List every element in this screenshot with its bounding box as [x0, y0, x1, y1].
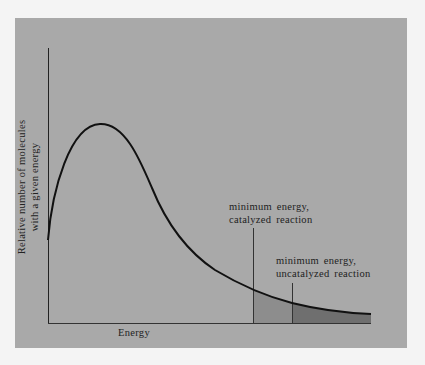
y-axis-label-line2: with a given energy [28, 120, 41, 255]
catalyzed-shaded-area [253, 290, 292, 323]
y-axis-label: Relative number of molecules with a give… [15, 120, 41, 255]
uncatalyzed-annotation-line2: uncatalyzed reaction [276, 267, 371, 280]
catalyzed-annotation: minimum energy, catalyzed reaction [229, 200, 312, 226]
uncatalyzed-annotation: minimum energy, uncatalyzed reaction [276, 254, 371, 280]
catalyzed-annotation-line2: catalyzed reaction [229, 213, 312, 226]
chart-plot [0, 0, 425, 365]
catalyzed-annotation-line1: minimum energy, [229, 200, 312, 213]
energy-distribution-curve [48, 124, 371, 314]
x-axis-label: Energy [118, 326, 150, 339]
uncatalyzed-annotation-line1: minimum energy, [276, 254, 371, 267]
y-axis-label-line1: Relative number of molecules [15, 120, 28, 255]
